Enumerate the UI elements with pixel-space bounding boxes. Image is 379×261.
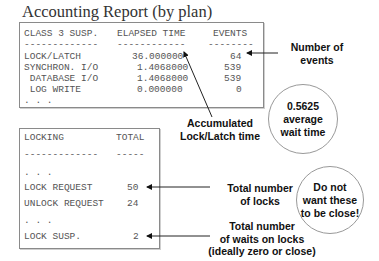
- average-wait-text: 0.5625 average wait time: [281, 100, 326, 139]
- average-wait-callout: 0.5625 average wait time: [268, 84, 338, 154]
- annotation-number-of-events: Number of events: [282, 41, 352, 66]
- do-not-be-close-text: Do not want these to be close!: [301, 181, 359, 220]
- annotation-accumulated-time: Accumulated Lock/Latch time: [175, 117, 265, 142]
- annotation-total-waits: Total number of waits on locks (ideally …: [202, 220, 322, 258]
- annotation-total-locks: Total number of locks: [215, 182, 305, 207]
